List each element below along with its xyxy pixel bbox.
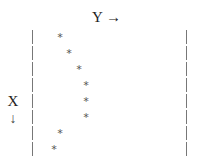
data-point-marker: * (82, 96, 90, 107)
left-border (32, 30, 33, 156)
data-point-marker: * (75, 64, 83, 75)
x-axis-label: X (7, 93, 19, 109)
data-point-marker: * (82, 80, 90, 91)
data-point-marker: * (56, 32, 64, 43)
data-point-marker: * (82, 112, 90, 123)
data-point-marker: * (56, 128, 64, 139)
data-point-marker: * (50, 144, 58, 155)
right-border (186, 30, 187, 156)
y-axis-label: Y → (92, 8, 121, 26)
data-point-marker: * (65, 48, 73, 59)
x-axis-arrow-icon: ↓ (7, 111, 19, 127)
